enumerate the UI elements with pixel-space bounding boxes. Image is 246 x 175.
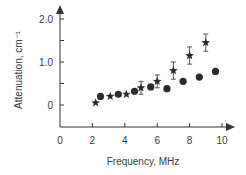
x-tick-label: 2 (90, 135, 96, 146)
x-tick-label: 10 (216, 135, 228, 146)
circle-marker-icon (163, 85, 170, 92)
x-tick-label: 8 (187, 135, 193, 146)
circle-marker-icon (180, 78, 187, 85)
y-tick-label: 0 (47, 100, 53, 111)
star-marker-icon (122, 90, 131, 98)
circle-marker-icon (115, 91, 122, 98)
x-ticks: 0246810 (57, 123, 228, 146)
data-points (91, 34, 219, 107)
circle-marker-icon (147, 83, 154, 90)
y-tick-label: 2.0 (39, 14, 53, 25)
y-tick-label: 1.0 (39, 57, 53, 68)
x-tick-label: 0 (57, 135, 63, 146)
x-axis-arrow-icon (226, 123, 235, 131)
circle-marker-icon (212, 68, 219, 75)
x-tick-label: 4 (122, 135, 128, 146)
axes (60, 12, 228, 127)
attenuation-chart: 0246810 01.02.0 Frequency, MHz Attenuati… (0, 0, 246, 175)
x-tick-label: 6 (154, 135, 160, 146)
x-axis-title: Frequency, MHz (107, 156, 180, 167)
circle-marker-icon (196, 73, 203, 80)
star-marker-icon (106, 92, 115, 100)
y-axis-title: Attenuation, cm⁻¹ (13, 30, 24, 108)
y-axis-arrow-icon (56, 5, 64, 14)
circle-marker-icon (97, 93, 104, 100)
circle-marker-icon (131, 88, 138, 95)
